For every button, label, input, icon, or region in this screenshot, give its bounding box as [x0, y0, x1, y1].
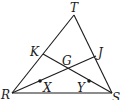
label-T: T [70, 1, 79, 15]
point-X-dot [38, 79, 42, 83]
label-K: K [29, 45, 40, 59]
label-R: R [0, 88, 10, 100]
label-X: X [42, 81, 52, 95]
label-S: S [112, 91, 120, 100]
label-J: J [95, 46, 104, 60]
label-G: G [62, 54, 72, 68]
triangle-diagram: T R S K J G X Y [0, 0, 124, 100]
label-Y: Y [77, 81, 86, 95]
point-Y-dot [87, 79, 91, 83]
